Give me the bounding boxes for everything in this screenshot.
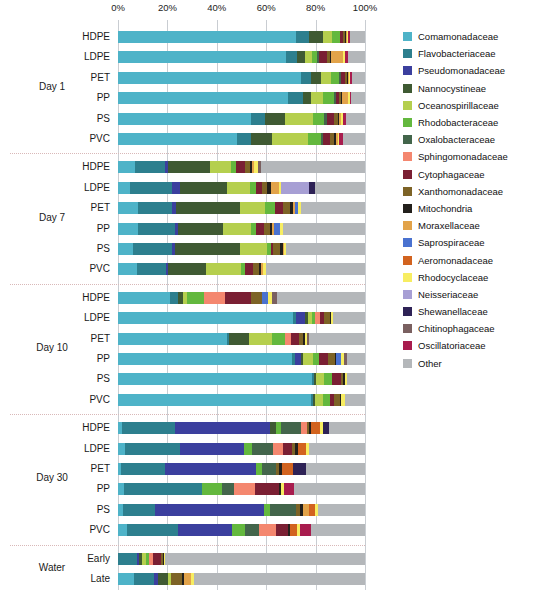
bar-segment <box>118 443 125 455</box>
stacked-bar <box>118 333 365 345</box>
legend-item[interactable]: Moraxellaceae <box>403 217 531 234</box>
bar-segment <box>332 31 339 43</box>
bar-segment <box>237 133 252 145</box>
group-separator <box>10 545 365 546</box>
bar-segment <box>118 202 138 214</box>
legend-swatch-icon <box>403 118 412 127</box>
legend-item[interactable]: Flavobacteriaceae <box>403 45 531 62</box>
bar-row-label: PET <box>0 329 110 349</box>
bar-segment <box>301 202 365 214</box>
x-axis-tick-label: 80% <box>306 2 325 13</box>
bar-segment <box>262 463 276 475</box>
legend-label: Comamonadaceae <box>418 31 498 42</box>
bar-segment <box>245 263 253 275</box>
legend-swatch-icon <box>403 307 412 316</box>
bar-row: PET <box>0 459 534 479</box>
group-separator <box>10 284 365 285</box>
bar-segment <box>118 524 127 536</box>
bar-segment <box>309 443 365 455</box>
bar-segment <box>223 223 251 235</box>
bar-segment <box>296 31 310 43</box>
bar-row-label: PP <box>0 88 110 108</box>
legend-item[interactable]: Nannocystineae <box>403 80 531 97</box>
stacked-bar <box>118 243 365 255</box>
bar-segment <box>168 263 206 275</box>
stacked-bar <box>118 182 365 194</box>
legend-swatch-icon <box>403 49 412 58</box>
legend-item[interactable]: Rhodobacteraceae <box>403 114 531 131</box>
legend-label: Saprospiraceae <box>418 237 485 248</box>
legend-item[interactable]: Xanthomonadaceae <box>403 183 531 200</box>
legend-item[interactable]: Saprospiraceae <box>403 234 531 251</box>
legend-item[interactable]: Oxalobacteraceae <box>403 131 531 148</box>
group-separator <box>10 153 365 154</box>
bar-segment <box>281 422 301 434</box>
bar-segment <box>265 113 285 125</box>
bar-segment <box>121 463 164 475</box>
bar-segment <box>346 113 365 125</box>
bar-segment <box>283 202 290 214</box>
bar-segment <box>319 353 328 365</box>
legend-label: Rhodobacteraceae <box>418 117 498 128</box>
bar-segment <box>118 72 301 84</box>
legend-item[interactable]: Aeromonadaceae <box>403 251 531 268</box>
stacked-bar <box>118 133 365 145</box>
bar-segment <box>333 312 365 324</box>
legend-item[interactable]: Mitochondria <box>403 200 531 217</box>
bar-segment <box>273 243 280 255</box>
legend-item[interactable]: Sphingomonadaceae <box>403 148 531 165</box>
legend-label: Shewanellaceae <box>418 306 488 317</box>
bar-segment <box>118 333 227 345</box>
bar-segment <box>240 243 267 255</box>
bar-segment <box>265 202 275 214</box>
bar-segment <box>227 182 250 194</box>
legend-item[interactable]: Cytophagaceae <box>403 166 531 183</box>
legend-label: Pseudomonadaceae <box>418 65 505 76</box>
legend-item[interactable]: Pseudomonadaceae <box>403 62 531 79</box>
bar-segment <box>232 524 246 536</box>
bar-segment <box>170 292 178 304</box>
legend-item[interactable]: Oceanospirillaceae <box>403 97 531 114</box>
bar-row-label: HDPE <box>0 27 110 47</box>
legend-swatch-icon <box>403 341 412 350</box>
bar-segment <box>306 463 365 475</box>
bar-segment <box>178 223 222 235</box>
legend-item[interactable]: Comamonadaceae <box>403 28 531 45</box>
bar-segment <box>180 443 244 455</box>
bar-segment <box>288 92 303 104</box>
bar-segment <box>323 133 330 145</box>
bar-segment <box>202 483 222 495</box>
stacked-bar <box>118 504 365 516</box>
bar-segment <box>283 443 292 455</box>
bar-segment <box>118 243 133 255</box>
bar-segment <box>229 333 249 345</box>
legend-item[interactable]: Shewanellaceae <box>403 303 531 320</box>
stacked-bar <box>118 524 365 536</box>
legend-item[interactable]: Neisseriaceae <box>403 286 531 303</box>
bar-row-label: PS <box>0 500 110 520</box>
stacked-bar <box>118 223 365 235</box>
bar-row: PP <box>0 479 534 499</box>
bar-segment <box>323 31 332 43</box>
stacked-bar <box>118 394 365 406</box>
bar-row: PVC <box>0 520 534 540</box>
bar-row-label: PVC <box>0 129 110 149</box>
stacked-bar <box>118 443 365 455</box>
legend-swatch-icon <box>403 101 412 110</box>
legend-label: Chitinophagaceae <box>418 323 495 334</box>
bar-segment <box>123 504 155 516</box>
legend: ComamonadaceaeFlavobacteriaceaePseudomon… <box>403 28 531 372</box>
legend-swatch-icon <box>403 32 412 41</box>
legend-item[interactable]: Rhodocyclaceae <box>403 269 531 286</box>
legend-item[interactable]: Chitinophagaceae <box>403 320 531 337</box>
stacked-bar <box>118 422 365 434</box>
legend-item[interactable]: Oscillatoriaceae <box>403 337 531 354</box>
bar-segment <box>206 263 241 275</box>
bar-segment <box>118 353 292 365</box>
legend-label: Aeromonadaceae <box>418 255 493 266</box>
legend-item[interactable]: Other <box>403 355 531 372</box>
bar-segment <box>301 72 311 84</box>
bar-row-label: PET <box>0 459 110 479</box>
bar-segment <box>276 524 287 536</box>
bar-segment <box>118 133 237 145</box>
